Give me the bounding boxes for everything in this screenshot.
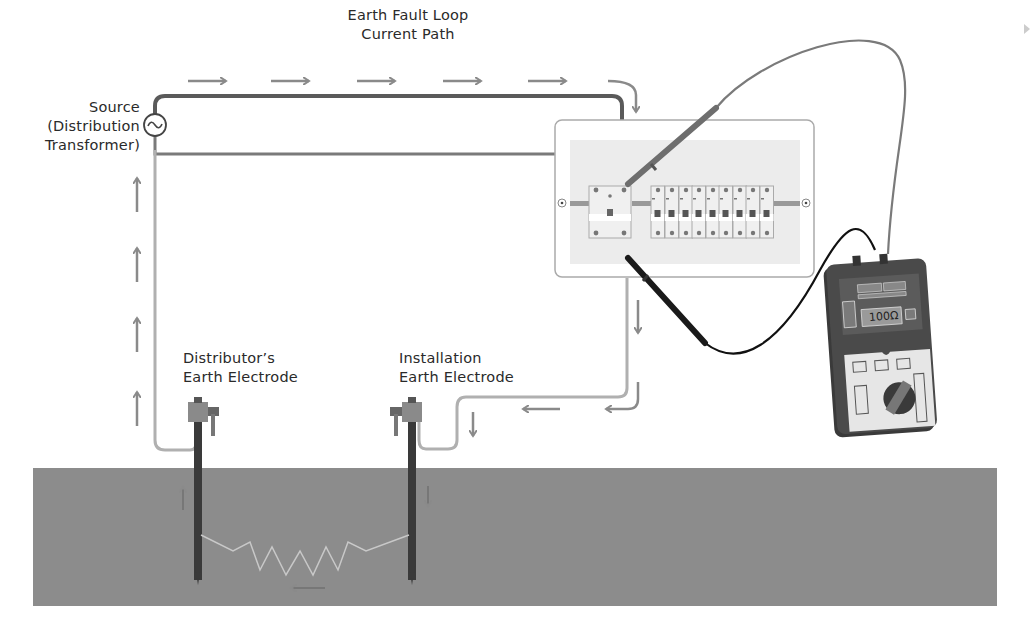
neutral-conductor <box>155 136 595 187</box>
installation-electrode-label: Installation Earth Electrode <box>399 349 514 387</box>
mcb-row <box>651 186 774 238</box>
source-label: Source (Distribution Transformer) <box>40 98 140 155</box>
main-switch <box>589 186 631 238</box>
ac-source-symbol <box>144 114 166 136</box>
diagram-title: Earth Fault Loop Current Path <box>318 6 498 44</box>
line-conductor <box>155 96 622 187</box>
consumer-unit <box>555 120 814 277</box>
distributor-electrode-label: Distributor’s Earth Electrode <box>183 349 298 387</box>
meter-reading: 100Ω <box>869 309 899 324</box>
ground-soil <box>33 468 997 606</box>
loop-tester-meter <box>822 251 937 438</box>
play-icon <box>1024 24 1030 34</box>
